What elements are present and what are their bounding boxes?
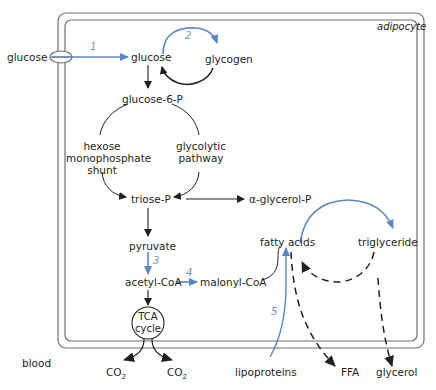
node-triose-p: triose-P bbox=[131, 193, 171, 205]
step-number-3: 3 bbox=[153, 255, 159, 266]
node-ffa: FFA bbox=[341, 366, 359, 378]
arrow-glycerolp-to-tg bbox=[348, 200, 393, 228]
node-pyruvate: pyruvate bbox=[129, 240, 176, 252]
step-number-5: 5 bbox=[271, 306, 277, 317]
cell-label: adipocyte bbox=[377, 21, 426, 33]
step-number-1: 1 bbox=[90, 41, 96, 52]
node-co2-left: CO2 bbox=[106, 366, 126, 383]
arrow-malonyl-to-fatty-acids bbox=[262, 246, 280, 280]
arrow-tca-to-co2-right bbox=[152, 339, 172, 360]
arrow-tg-to-glycerol bbox=[378, 278, 392, 366]
step-number-4: 4 bbox=[186, 267, 192, 278]
node-acetyl-coa: acetyl-CoA bbox=[125, 276, 182, 288]
blood-label: blood bbox=[22, 357, 51, 369]
node-glycolytic-pathway: glycolytic pathway bbox=[172, 140, 230, 164]
step-number-2: 2 bbox=[185, 30, 191, 41]
node-co2-right: CO2 bbox=[167, 366, 187, 383]
node-glycogen: glycogen bbox=[205, 53, 253, 65]
node-fatty-acids: fatty acids bbox=[260, 236, 315, 248]
node-tca-cycle: TCA cycle bbox=[133, 311, 163, 335]
node-lipoproteins: lipoproteins bbox=[235, 366, 297, 378]
arrow-glycolysis-to-triose bbox=[174, 172, 199, 197]
node-triglyceride: triglyceride bbox=[358, 236, 418, 248]
arrow-glycogenolysis bbox=[162, 67, 213, 84]
node-alpha-glycerol-p: α-glycerol-P bbox=[249, 193, 311, 205]
node-glucose-cell: glucose bbox=[131, 51, 171, 63]
node-hmp-shunt: hexose monophosphate shunt bbox=[66, 140, 138, 176]
arrow-lipolysis-to-fatty-acids bbox=[302, 252, 374, 282]
node-malonyl-coa: malonyl-CoA bbox=[200, 276, 267, 288]
node-glycerol: glycerol bbox=[376, 366, 417, 378]
arrow-fatty-acids-to-ffa bbox=[291, 252, 335, 366]
node-glucose-6-p: glucose-6-P bbox=[122, 93, 183, 105]
node-glucose-blood: glucose bbox=[7, 51, 47, 63]
arrow-tca-to-co2-left bbox=[124, 339, 144, 360]
